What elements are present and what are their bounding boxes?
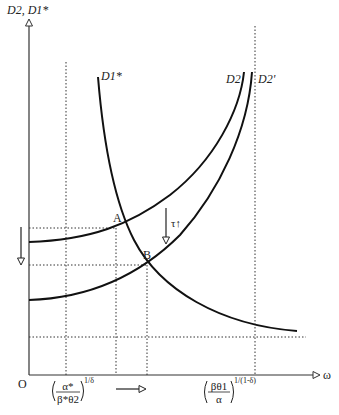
- origin-label: O: [18, 377, 27, 391]
- curve-D2prime: [29, 72, 252, 300]
- tau-annotation: τ↑: [171, 217, 181, 229]
- y-axis-arrow-icon: [26, 19, 33, 26]
- curve-D1star: [98, 77, 297, 331]
- curve-label-D2prime: D2': [257, 72, 276, 86]
- x-tick-left-formula: α* β*θ2 1/δ: [53, 376, 95, 405]
- shift-arrow-tau: [163, 208, 170, 244]
- point-label-A: A: [113, 211, 122, 225]
- x-tick-right-denominator: α: [216, 393, 222, 405]
- economic-diagram: D2, D1* D1* D2 D2' A B τ↑ O ω α* β*θ2 1/…: [0, 0, 339, 415]
- point-label-B: B: [143, 248, 151, 262]
- arrow-down-icon: [163, 237, 170, 244]
- x-tick-right-exponent: 1/(1-δ): [234, 376, 256, 385]
- x-tick-left-numerator: α*: [62, 380, 73, 392]
- curves: [29, 72, 297, 331]
- curve-label-D2: D2: [225, 72, 241, 86]
- x-tick-right-numerator: βθ1: [211, 380, 227, 392]
- x-tick-right-formula: βθ1 α 1/(1-δ): [205, 376, 257, 405]
- arrow-down-icon: [18, 258, 25, 265]
- x-axis-label: ω: [323, 368, 331, 382]
- x-tick-left-exponent: 1/δ: [84, 376, 94, 385]
- x-axis-arrow-icon: [313, 372, 320, 379]
- arrow-right-icon: [139, 386, 146, 393]
- curve-D2: [29, 72, 244, 242]
- y-axis-label: D2, D1*: [6, 3, 48, 17]
- curve-label-D1star: D1*: [100, 69, 122, 83]
- shift-arrow-bottom: [116, 386, 146, 393]
- shift-arrow-left: [18, 227, 25, 265]
- x-tick-left-denominator: β*θ2: [57, 393, 79, 405]
